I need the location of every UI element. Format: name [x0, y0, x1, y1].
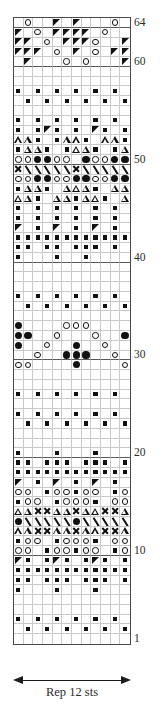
cell-r30-s8: [53, 351, 63, 361]
cell-r40-s8: [53, 253, 63, 263]
cell-r17-s4: [91, 478, 101, 488]
cell-r42-s3: [101, 233, 111, 243]
cell-r62-s2: [111, 38, 121, 48]
cell-r47-s10: [33, 184, 43, 194]
cell-r54-s6: [72, 116, 82, 126]
cell-r29-s2: [111, 360, 121, 370]
cell-r26-s10: [33, 390, 43, 400]
cell-r23-s4: [91, 419, 101, 429]
cell-r52-s1: [120, 135, 130, 145]
cell-r16-s3: [101, 488, 111, 498]
chart-row-10: [14, 546, 130, 556]
chart-row-61: [14, 47, 130, 57]
cell-r62-s10: [33, 38, 43, 48]
cell-r34-s7: [62, 311, 72, 321]
cell-r39-s6: [72, 263, 82, 273]
cell-r1-s4: [91, 634, 101, 644]
cell-r16-s7: [62, 488, 72, 498]
cell-r36-s1: [120, 292, 130, 302]
cell-r49-s6: [72, 165, 82, 175]
cell-r32-s9: [43, 331, 53, 341]
cell-r58-s5: [82, 77, 92, 87]
cell-r16-s12: [14, 488, 24, 498]
cell-r7-s6: [72, 576, 82, 586]
cell-r41-s8: [53, 243, 63, 253]
cell-r50-s6: [72, 155, 82, 165]
cell-r20-s8: [53, 448, 63, 458]
cell-r31-s3: [101, 341, 111, 351]
cell-r21-s7: [62, 439, 72, 449]
cell-r18-s5: [82, 468, 92, 478]
cell-r64-s3: [101, 18, 111, 28]
cell-r35-s5: [82, 302, 92, 312]
cell-r63-s9: [43, 28, 53, 38]
chart-row-53: [14, 126, 130, 136]
cell-r34-s8: [53, 311, 63, 321]
cell-r26-s8: [53, 390, 63, 400]
cell-r52-s11: [24, 135, 34, 145]
chart-row-39: [14, 263, 130, 273]
cell-r37-s8: [53, 282, 63, 292]
chart-row-56: [14, 96, 130, 106]
cell-r25-s3: [101, 399, 111, 409]
cell-r53-s9: [43, 126, 53, 136]
cell-r1-s11: [24, 634, 34, 644]
cell-r40-s3: [101, 253, 111, 263]
cell-r9-s7: [62, 556, 72, 566]
cell-r24-s4: [91, 409, 101, 419]
cell-r18-s6: [72, 468, 82, 478]
cell-r32-s5: [82, 331, 92, 341]
cell-r36-s4: [91, 292, 101, 302]
cell-r41-s9: [43, 243, 53, 253]
cell-r19-s9: [43, 458, 53, 468]
cell-r56-s3: [101, 96, 111, 106]
cell-r41-s12: [14, 243, 24, 253]
cell-r43-s4: [91, 223, 101, 233]
cell-r50-s3: [101, 155, 111, 165]
cell-r43-s8: [53, 223, 63, 233]
cell-r10-s1: [120, 546, 130, 556]
knitting-chart: 646050403020101 Rep 12 sts: [0, 0, 161, 707]
cell-r17-s2: [111, 478, 121, 488]
cell-r17-s5: [82, 478, 92, 488]
cell-r51-s9: [43, 145, 53, 155]
cell-r49-s8: [53, 165, 63, 175]
cell-r58-s4: [91, 77, 101, 87]
cell-r39-s2: [111, 263, 121, 273]
cell-r21-s8: [53, 439, 63, 449]
cell-r4-s12: [14, 605, 24, 615]
cell-r7-s2: [111, 576, 121, 586]
cell-r56-s10: [33, 96, 43, 106]
cell-r31-s5: [82, 341, 92, 351]
cell-r40-s7: [62, 253, 72, 263]
cell-r22-s8: [53, 429, 63, 439]
chart-row-14: [14, 507, 130, 517]
cell-r10-s12: [14, 546, 24, 556]
cell-r10-s3: [101, 546, 111, 556]
cell-r55-s12: [14, 106, 24, 116]
cell-r18-s12: [14, 468, 24, 478]
cell-r62-s9: [43, 38, 53, 48]
cell-r46-s4: [91, 194, 101, 204]
cell-r48-s12: [14, 175, 24, 185]
cell-r7-s7: [62, 576, 72, 586]
cell-r56-s11: [24, 96, 34, 106]
cell-r15-s8: [53, 497, 63, 507]
cell-r23-s1: [120, 419, 130, 429]
cell-r35-s3: [101, 302, 111, 312]
cell-r47-s12: [14, 184, 24, 194]
cell-r7-s9: [43, 576, 53, 586]
cell-r42-s7: [62, 233, 72, 243]
cell-r47-s3: [101, 184, 111, 194]
cell-r54-s11: [24, 116, 34, 126]
cell-r51-s11: [24, 145, 34, 155]
cell-r58-s8: [53, 77, 63, 87]
cell-r23-s7: [62, 419, 72, 429]
cell-r55-s7: [62, 106, 72, 116]
cell-r40-s10: [33, 253, 43, 263]
cell-r12-s5: [82, 527, 92, 537]
cell-r12-s2: [111, 527, 121, 537]
cell-r39-s1: [120, 263, 130, 273]
cell-r36-s7: [62, 292, 72, 302]
cell-r53-s8: [53, 126, 63, 136]
